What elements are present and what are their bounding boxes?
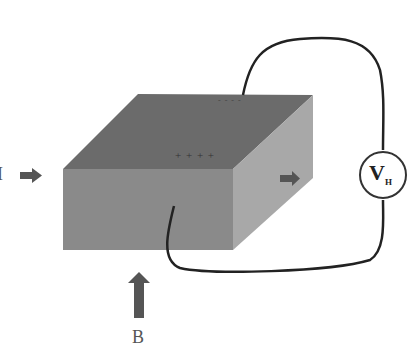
voltmeter-label: VH bbox=[369, 160, 392, 187]
hall-effect-diagram bbox=[0, 0, 420, 363]
magnetic-field-label: B bbox=[132, 327, 144, 348]
magnetic-field-arrow-icon bbox=[128, 272, 150, 318]
current-label: I bbox=[0, 164, 3, 185]
bottom-charge-label: + + + + bbox=[175, 149, 215, 161]
voltmeter-sub-label: H bbox=[385, 177, 392, 187]
current-arrow-icon bbox=[20, 168, 42, 183]
slab-front-face bbox=[63, 169, 233, 250]
voltmeter-main-label: V bbox=[369, 160, 385, 185]
top-charge-label: - - - - bbox=[218, 96, 242, 105]
